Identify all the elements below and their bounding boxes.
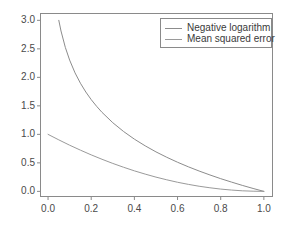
legend-line-swatch-icon	[165, 23, 182, 32]
y-tick-label: 2.5	[8, 44, 35, 54]
legend-label: Mean squared error	[187, 33, 275, 44]
legend-label: Negative logarithm	[187, 22, 270, 33]
y-tick-label: 0.0	[8, 186, 35, 196]
x-tick-label: 0.6	[158, 204, 198, 214]
y-tick-label: 0.5	[8, 158, 35, 168]
x-tick-label: 0.8	[201, 204, 241, 214]
y-tick-label: 1.0	[8, 129, 35, 139]
legend-entry: Negative logarithm	[165, 22, 266, 33]
y-tick-label: 2.0	[8, 72, 35, 82]
x-tick-label: 1.0	[244, 204, 284, 214]
legend-entry: Mean squared error	[165, 33, 266, 44]
legend-line-swatch-icon	[165, 34, 182, 43]
y-tick-label: 1.5	[8, 101, 35, 111]
series-line-2	[48, 134, 264, 191]
y-tick-label: 3.0	[8, 15, 35, 25]
chart-figure: 0.00.51.01.52.02.53.0 0.00.20.40.60.81.0…	[0, 0, 286, 236]
x-tick-label: 0.2	[71, 204, 111, 214]
x-tick-label: 0.4	[114, 204, 154, 214]
x-tick-label: 0.0	[28, 204, 68, 214]
chart-legend: Negative logarithmMean squared error	[160, 18, 272, 48]
